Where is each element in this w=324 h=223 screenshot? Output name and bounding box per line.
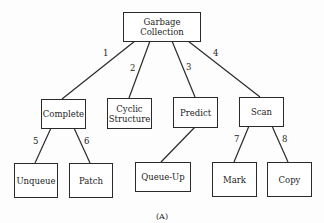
edge-label-4: 4 [213, 48, 218, 58]
node-garbage-collection: Garbage Collection [123, 12, 201, 42]
node-scan: Scan [239, 97, 284, 127]
node-complete: Complete [41, 99, 86, 129]
node-predict: Predict [173, 97, 218, 128]
edge-label-7: 7 [234, 134, 239, 144]
edge-label-6: 6 [84, 136, 89, 146]
tree-diagram: Garbage Collection Complete Cyclic Struc… [0, 0, 324, 223]
edge-label-5: 5 [33, 136, 38, 146]
node-copy: Copy [267, 162, 312, 197]
edge-label-2: 2 [130, 63, 135, 73]
node-patch: Patch [69, 163, 113, 198]
node-queue-up: Queue-Up [135, 162, 191, 192]
node-mark: Mark [212, 162, 257, 197]
node-unqueue: Unqueue [14, 163, 58, 198]
node-cyclic-structure: Cyclic Structure [107, 98, 152, 129]
edge-label-8: 8 [282, 134, 287, 144]
edge-label-1: 1 [103, 48, 108, 58]
edge-label-3: 3 [186, 62, 191, 72]
figure-caption: (A) [0, 212, 324, 221]
